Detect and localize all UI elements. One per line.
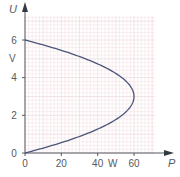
y-tick-label: 0 [11, 148, 17, 159]
pv-chart: 02040600246 P W U V [0, 0, 180, 177]
x-axis-label: P [168, 157, 176, 169]
x-tick-label: 20 [56, 158, 68, 169]
y-axis-arrow-icon [22, 2, 28, 12]
x-axis-arrow-icon [164, 150, 174, 156]
x-tick-label: 0 [22, 158, 28, 169]
x-tick-label: 60 [128, 158, 140, 169]
y-tick-label: 6 [11, 35, 17, 46]
y-tick-label: 4 [11, 72, 17, 83]
x-axis-unit: W [108, 158, 118, 169]
x-tick-label: 40 [92, 158, 104, 169]
y-axis-unit: V [9, 53, 16, 64]
y-axis-label: U [9, 3, 17, 15]
y-tick-label: 2 [11, 110, 17, 121]
